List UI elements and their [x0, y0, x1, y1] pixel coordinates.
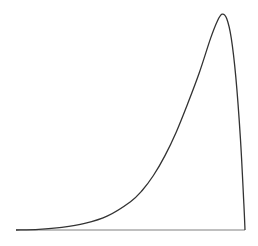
- density-curve: [16, 14, 245, 230]
- density-chart: [0, 0, 258, 246]
